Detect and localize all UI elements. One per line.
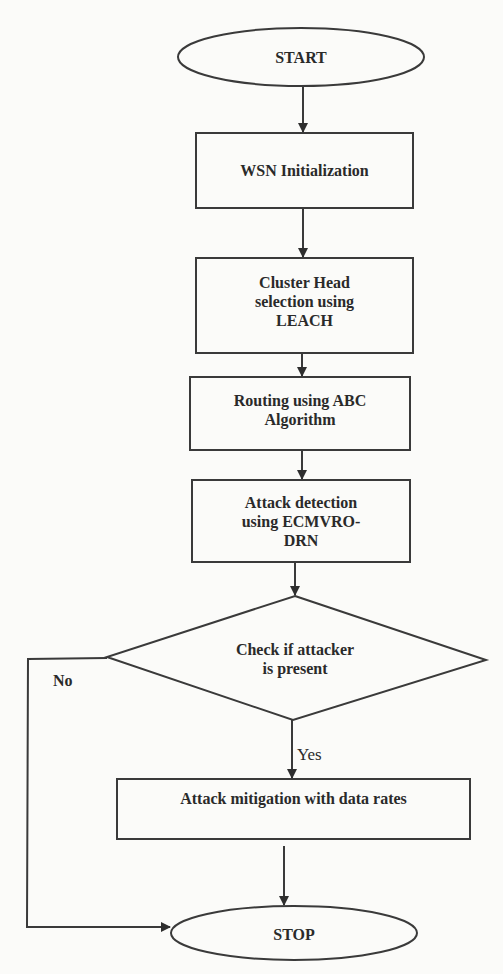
edge-label-yes: Yes: [297, 745, 322, 765]
cluster-head-text-line1: Cluster Head: [259, 273, 350, 292]
mitigation-node-label: Attack mitigation with data rates: [117, 786, 470, 810]
wsn-init-text: WSN Initialization: [240, 161, 368, 180]
routing-text-line2: Algorithm: [264, 410, 335, 429]
edge-label-no: No: [53, 672, 73, 690]
mitigation-text: Attack mitigation with data rates: [180, 789, 407, 808]
routing-text-line1: Routing using ABC: [234, 391, 367, 410]
stop-text: STOP: [273, 925, 315, 944]
cluster-head-text-line2: selection using: [255, 292, 354, 311]
cluster-head-text-line3: LEACH: [276, 311, 333, 330]
attack-detection-node-label: Attack detection using ECMVRO- DRN: [192, 480, 410, 562]
attack-detection-text-line2: using ECMVRO-: [242, 512, 361, 531]
check-attacker-text-line2: is present: [262, 659, 327, 678]
routing-node-label: Routing using ABC Algorithm: [190, 377, 410, 443]
cluster-head-node-label: Cluster Head selection using LEACH: [196, 256, 413, 346]
start-text: START: [275, 48, 327, 67]
attack-detection-text-line3: DRN: [284, 531, 319, 550]
start-node-label: START: [178, 45, 424, 69]
check-attacker-text-line1: Check if attacker: [236, 640, 354, 659]
stop-node-label: STOP: [171, 922, 417, 946]
wsn-init-node-label: WSN Initialization: [196, 133, 413, 208]
check-attacker-node-label: Check if attacker is present: [195, 636, 395, 682]
attack-detection-text-line1: Attack detection: [245, 493, 357, 512]
